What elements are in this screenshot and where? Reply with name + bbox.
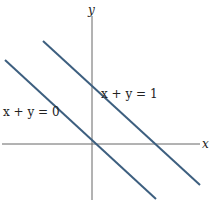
coordinate-diagram: y x x + y = 1 x + y = 0 bbox=[0, 0, 211, 218]
y-axis-label: y bbox=[87, 3, 95, 17]
line-x-plus-y-eq-1 bbox=[43, 41, 200, 185]
x-axis-label: x bbox=[202, 137, 209, 151]
line-x-plus-y-eq-0 bbox=[5, 60, 156, 199]
diagram-svg: y x x + y = 1 x + y = 0 bbox=[0, 0, 211, 218]
label-line-upper: x + y = 1 bbox=[101, 87, 158, 101]
label-line-lower: x + y = 0 bbox=[3, 105, 60, 119]
